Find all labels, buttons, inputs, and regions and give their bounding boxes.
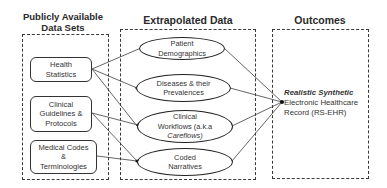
- node-coded-narratives: Coded Narratives: [137, 148, 233, 176]
- header-extrapolated-data: Extrapolated Data: [128, 15, 248, 26]
- node-label: Patient: [170, 39, 193, 49]
- node-patient-demographics: Patient Demographics: [139, 37, 225, 60]
- header-text: Publicly Available Data Sets: [23, 11, 103, 33]
- node-label: Diseases & their: [157, 79, 211, 89]
- node-clinical-workflows: Clinical Workflows (a.k.a Careflows): [137, 110, 233, 143]
- header-public-data-sets: Publicly Available Data Sets: [18, 11, 108, 33]
- node-health-statistics: Health Statistics: [30, 57, 92, 82]
- node-label: Narratives: [168, 162, 202, 172]
- node-label: Coded: [174, 153, 196, 163]
- node-label: Health: [46, 60, 76, 70]
- node-clinical-guidelines: Clinical Guidelines & Protocols: [30, 96, 92, 132]
- node-label: Clinical: [173, 112, 197, 122]
- node-label: Protocols: [39, 119, 82, 129]
- node-label: Medical Codes: [38, 143, 88, 153]
- node-label: Workflows (a.k.a: [158, 122, 212, 132]
- node-label: Clinical: [39, 100, 82, 110]
- node-label: Demographics: [158, 49, 206, 59]
- node-label: Terminologies: [38, 162, 88, 172]
- header-outcomes: Outcomes: [272, 15, 368, 26]
- outcome-label: Record (RS-EHR): [284, 108, 374, 118]
- node-label: Statistics: [46, 70, 76, 80]
- node-label: &: [38, 152, 88, 162]
- node-label: Guidelines &: [39, 109, 82, 119]
- node-rs-ehr: Realistic Synthetic Electronic Healthcar…: [284, 88, 374, 117]
- outcome-title: Realistic Synthetic: [284, 88, 374, 98]
- outcome-label: Electronic Healthcare: [284, 98, 374, 108]
- node-label: Careflows): [167, 131, 202, 141]
- node-label: Prevalences: [163, 88, 204, 98]
- node-medical-codes: Medical Codes & Terminologies: [30, 140, 97, 174]
- node-diseases-prevalences: Diseases & their Prevalences: [136, 74, 231, 102]
